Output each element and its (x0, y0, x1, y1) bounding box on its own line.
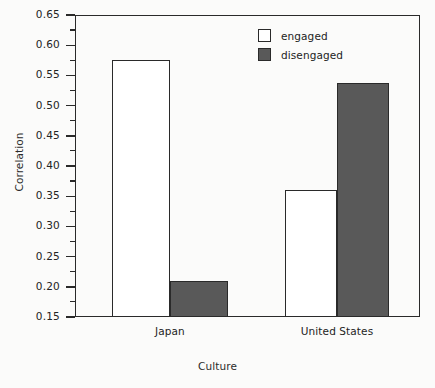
y-tick-label: 0.30 (0, 219, 60, 231)
tick-mark (70, 271, 75, 272)
y-tick-label: 0.65 (0, 8, 60, 20)
y-tick-label: 0.25 (0, 250, 60, 262)
tick-mark (66, 226, 75, 227)
tick-mark (66, 286, 75, 287)
y-tick-label: 0.35 (0, 189, 60, 201)
x-tick-label-united-states: United States (257, 325, 417, 337)
bar-japan-disengaged (170, 281, 228, 317)
y-tick-label: 0.50 (0, 99, 60, 111)
bar-united-states-engaged (285, 190, 337, 317)
legend-swatch-engaged-icon (258, 29, 271, 42)
tick-mark (70, 150, 75, 151)
bar-united-states-disengaged (337, 83, 389, 317)
tick-mark (66, 165, 75, 166)
tick-mark (66, 316, 75, 317)
tick-mark (66, 75, 75, 76)
y-tick-label: 0.15 (0, 310, 60, 322)
x-axis-title: Culture (0, 360, 435, 372)
tick-mark (70, 211, 75, 212)
tick-mark (66, 196, 75, 197)
y-tick-label: 0.45 (0, 129, 60, 141)
tick-mark (70, 180, 75, 181)
legend-label-disengaged: disengaged (281, 49, 343, 61)
y-tick-label: 0.60 (0, 38, 60, 50)
tick-mark (70, 60, 75, 61)
tick-mark (66, 14, 75, 15)
legend-item-disengaged: disengaged (258, 45, 343, 64)
tick-mark (66, 256, 75, 257)
y-tick-label: 0.40 (0, 159, 60, 171)
bar-chart: Correlation 0.650.600.550.500.450.400.35… (0, 0, 435, 388)
x-tick-label-japan: Japan (90, 325, 250, 337)
y-tick-label: 0.55 (0, 68, 60, 80)
tick-mark (70, 241, 75, 242)
legend-label-engaged: engaged (281, 30, 328, 42)
tick-mark (70, 29, 75, 30)
tick-mark (66, 45, 75, 46)
bar-japan-engaged (112, 60, 170, 317)
tick-mark (70, 301, 75, 302)
y-tick-label: 0.20 (0, 280, 60, 292)
tick-mark (66, 135, 75, 136)
legend-swatch-disengaged-icon (258, 48, 271, 61)
tick-mark (70, 120, 75, 121)
legend: engaged disengaged (258, 26, 343, 64)
tick-mark (70, 90, 75, 91)
legend-item-engaged: engaged (258, 26, 343, 45)
tick-mark (66, 105, 75, 106)
